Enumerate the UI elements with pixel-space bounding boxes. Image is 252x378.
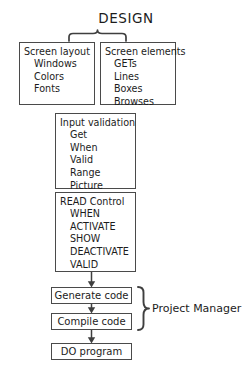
diagram-canvas: DESIGN Screen layout Windows Colors [0,0,252,378]
box-compile-code: Compile code [51,313,132,330]
box-generate-code: Generate code [51,287,132,304]
arrow-compile-to-do-icon [88,330,95,344]
box-screen-layout: Screen layout Windows Colors Fonts [19,42,95,105]
arrow-read-to-generate-icon [88,272,95,288]
box-screen-layout-item: Windows [20,58,94,71]
page-title: DESIGN [0,10,252,26]
box-screen-elements-item: Lines [101,71,175,84]
box-read-control-item: DEACTIVATE [56,246,135,259]
box-screen-layout-title: Screen layout [20,46,94,58]
box-read-control: READ Control WHEN ACTIVATE SHOW DEACTIVA… [55,192,136,272]
box-screen-elements-item: Boxes [101,83,175,96]
box-read-control-item: WHEN [56,208,135,221]
box-screen-layout-item: Fonts [20,83,94,96]
box-input-validation-item: Get [56,129,135,142]
box-screen-layout-item: Colors [20,71,94,84]
box-generate-code-label: Generate code [55,290,129,302]
box-compile-code-label: Compile code [57,316,125,328]
box-screen-elements-item: GETs [101,58,175,71]
box-input-validation-item: Range [56,167,135,180]
project-manager-label: Project Manager [152,302,241,315]
box-do-program-label: DO program [61,346,122,358]
box-input-validation: Input validation Get When Valid Range Pi… [55,113,136,189]
box-input-validation-item: Picture [56,180,135,193]
box-read-control-item: ACTIVATE [56,221,135,234]
box-input-validation-item: Valid [56,154,135,167]
project-manager-brace-icon [138,287,149,330]
box-read-control-item: SHOW [56,233,135,246]
box-screen-elements-item: Browses [101,96,175,109]
box-read-control-title: READ Control [56,196,135,208]
box-input-validation-title: Input validation [56,117,135,129]
box-screen-elements: Screen elements GETs Lines Boxes Browses [100,42,176,105]
design-brace-icon [69,30,126,41]
box-screen-elements-title: Screen elements [101,46,175,58]
box-input-validation-item: When [56,142,135,155]
box-do-program: DO program [51,343,132,360]
box-read-control-item: VALID [56,259,135,272]
